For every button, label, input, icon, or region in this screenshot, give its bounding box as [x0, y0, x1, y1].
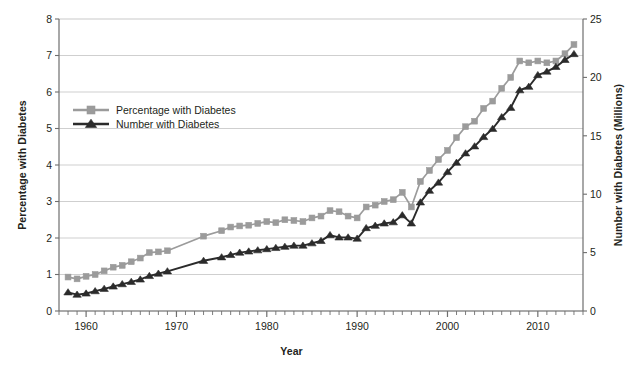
y-tick-label-left: 8	[46, 13, 52, 25]
data-point-marker	[246, 222, 252, 228]
data-point-marker	[273, 220, 279, 226]
y-tick-label-left: 5	[46, 122, 52, 134]
data-point-marker	[65, 274, 71, 280]
data-point-marker	[300, 219, 306, 225]
data-point-marker	[219, 228, 225, 234]
y-tick-label-left: 3	[46, 195, 52, 207]
data-point-marker	[92, 272, 98, 278]
y-tick-label-left: 1	[46, 268, 52, 280]
x-tick-label: 2010	[526, 320, 550, 332]
data-point-marker	[436, 157, 442, 163]
data-point-marker	[507, 104, 515, 110]
data-point-marker	[282, 217, 288, 223]
y-axis-left-title: Percentage with Diabetes	[16, 100, 28, 230]
y-tick-label-left: 6	[46, 86, 52, 98]
data-point-marker	[327, 208, 333, 214]
data-point-marker	[345, 213, 351, 219]
gridlines	[59, 19, 583, 311]
data-point-marker	[110, 264, 116, 270]
x-tick-label: 1990	[345, 320, 369, 332]
data-point-marker	[255, 221, 261, 227]
data-point-marker	[372, 202, 378, 208]
data-point-marker	[398, 212, 406, 218]
y-tick-label-right: 15	[590, 130, 602, 142]
data-point-marker	[228, 224, 234, 230]
y-tick-label-right: 25	[590, 13, 602, 25]
series-percentage	[65, 42, 577, 282]
data-point-marker	[74, 276, 80, 282]
data-point-marker	[490, 98, 496, 104]
y-tick-label-right: 0	[590, 305, 596, 317]
legend-marker	[87, 106, 95, 114]
diabetes-trend-chart: 0123456780510152025196019701980199020002…	[0, 0, 629, 367]
data-point-marker	[381, 199, 387, 205]
data-point-marker	[408, 204, 414, 210]
data-point-marker	[481, 106, 487, 112]
data-point-marker	[472, 118, 478, 124]
data-point-marker	[83, 273, 89, 279]
data-point-marker	[237, 223, 243, 229]
x-axis-minor-ticks	[59, 311, 583, 317]
data-point-marker	[309, 215, 315, 221]
data-point-marker	[201, 233, 207, 239]
y-tick-label-left: 4	[46, 159, 52, 171]
data-point-marker	[336, 209, 342, 215]
x-tick-label: 2000	[436, 320, 460, 332]
data-point-marker	[137, 255, 143, 261]
legend-label: Percentage with Diabetes	[116, 104, 236, 116]
x-axis-title: Year	[0, 345, 583, 357]
series-line	[68, 54, 574, 295]
data-point-marker	[119, 262, 125, 268]
data-point-marker	[526, 60, 532, 66]
data-point-marker	[64, 289, 72, 295]
data-point-marker	[508, 75, 514, 81]
data-point-marker	[264, 219, 270, 225]
data-point-marker	[155, 249, 161, 255]
data-point-marker	[463, 124, 469, 130]
data-point-marker	[544, 60, 550, 66]
y-axis-right-ticks: 0510152025	[583, 13, 602, 317]
y-axis-left-ticks: 012345678	[46, 13, 59, 317]
legend-item: Percentage with Diabetes	[73, 104, 236, 116]
data-point-marker	[571, 42, 577, 48]
data-point-marker	[570, 50, 578, 56]
data-point-marker	[417, 179, 423, 185]
data-point-marker	[535, 58, 541, 64]
data-point-marker	[427, 168, 433, 174]
x-tick-label: 1980	[255, 320, 279, 332]
data-point-marker	[390, 197, 396, 203]
data-point-marker	[562, 51, 568, 57]
data-point-marker	[165, 248, 171, 254]
data-point-marker	[517, 58, 523, 64]
data-point-marker	[318, 213, 324, 219]
y-tick-label-right: 5	[590, 246, 596, 258]
data-point-marker	[445, 148, 451, 154]
data-point-marker	[101, 268, 107, 274]
legend-item: Number with Diabetes	[73, 118, 219, 130]
data-point-marker	[454, 135, 460, 141]
x-tick-label: 1970	[165, 320, 189, 332]
data-point-marker	[146, 250, 152, 256]
data-point-marker	[128, 259, 134, 265]
data-point-marker	[399, 189, 405, 195]
data-point-marker	[291, 218, 297, 224]
data-point-marker	[354, 215, 360, 221]
y-tick-label-left: 7	[46, 49, 52, 61]
y-axis-right-title: Number with Diabetes (Millions)	[612, 84, 624, 246]
y-tick-label-right: 10	[590, 188, 602, 200]
x-tick-label: 1960	[74, 320, 98, 332]
data-point-marker	[499, 85, 505, 91]
y-tick-label-left: 2	[46, 232, 52, 244]
y-tick-label-right: 20	[590, 71, 602, 83]
chart-canvas: 0123456780510152025196019701980199020002…	[0, 0, 629, 367]
data-point-marker	[363, 204, 369, 210]
x-axis-tick-labels: 196019701980199020002010	[74, 320, 549, 332]
data-point-marker	[326, 231, 334, 237]
y-tick-label-left: 0	[46, 305, 52, 317]
chart-legend: Percentage with DiabetesNumber with Diab…	[73, 104, 236, 130]
legend-label: Number with Diabetes	[116, 118, 219, 130]
